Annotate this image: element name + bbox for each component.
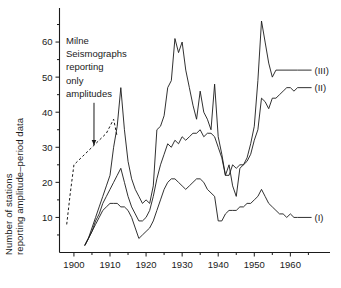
annotation-line: reporting [66, 61, 104, 72]
x-tick-label: 1960 [280, 259, 301, 270]
x-tick-label: 1920 [136, 259, 157, 270]
annotation-group: MilneSeismographsreportingonlyamplitudes [66, 35, 127, 145]
y-tick-label: 10 [42, 212, 53, 223]
series-line-I [85, 179, 298, 246]
y-tick-label: 60 [42, 36, 53, 47]
y-tick-label: 30 [42, 142, 53, 153]
x-tick-label: 1910 [99, 259, 120, 270]
annotation-line: amplitudes [66, 88, 112, 99]
series-line-milne-dashed [67, 119, 118, 224]
x-tick-group: 1900191019201930194019501960 [63, 253, 308, 270]
annotation-line: Milne [66, 35, 89, 46]
x-tick-label: 1950 [244, 259, 265, 270]
x-tick-label: 1940 [208, 259, 229, 270]
series-label-I: (I) [315, 212, 324, 223]
y-tick-label: 50 [42, 72, 53, 83]
y-tick-group: 102030405060 [42, 25, 60, 235]
chart-plot-area: 102030405060 190019101920193019401950196… [0, 0, 341, 288]
series-label-III: (III) [315, 65, 329, 76]
annotation-line: Seismographs [66, 48, 127, 59]
series-line-II [85, 88, 298, 246]
y-tick-label: 20 [42, 177, 53, 188]
x-tick-label: 1930 [172, 259, 193, 270]
annotation-line: only [66, 75, 84, 86]
y-tick-label: 40 [42, 107, 53, 118]
x-tick-label: 1900 [63, 259, 84, 270]
series-label-group: (III)(II)(I) [315, 65, 329, 223]
figure-root: Number of stations reporting amplitude–p… [0, 0, 341, 288]
series-label-II: (II) [315, 82, 327, 93]
annotation-arrow-head [92, 140, 97, 145]
